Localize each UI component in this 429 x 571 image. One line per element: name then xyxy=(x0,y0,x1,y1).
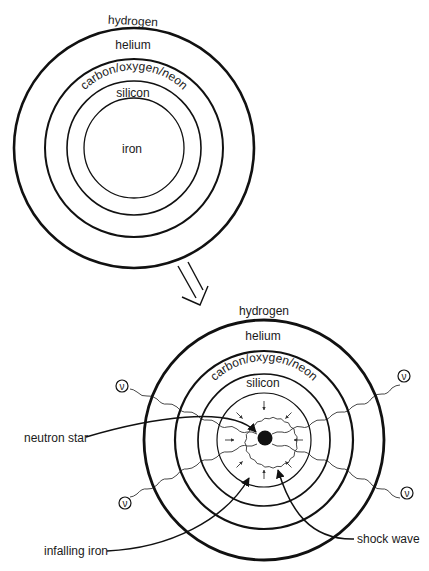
label-hydrogen: hydrogen xyxy=(239,304,289,318)
label-infalling-iron: infalling iron xyxy=(44,544,108,558)
label-neutron-star: neutron star xyxy=(24,431,88,445)
infalling-iron-pointer xyxy=(107,478,249,551)
neutron-star xyxy=(258,431,273,446)
label-helium: helium xyxy=(115,38,150,52)
neutrino-icon-bottom-left: ν xyxy=(119,497,131,509)
shock-wave xyxy=(245,417,297,468)
svg-text:ν: ν xyxy=(123,498,128,509)
svg-text:ν: ν xyxy=(405,488,410,499)
core-collapse-star: hydrogen helium carbon/oxygen/neon silic… xyxy=(24,304,420,560)
svg-text:ν: ν xyxy=(402,371,407,382)
label-helium: helium xyxy=(245,329,280,343)
svg-text:ν: ν xyxy=(120,381,125,392)
supernova-diagram: hydrogen helium carbon/oxygen/neon silic… xyxy=(0,0,429,571)
label-iron: iron xyxy=(122,142,142,156)
neutrino-icon-top-left: ν xyxy=(116,380,128,392)
label-hydrogen: hydrogen xyxy=(108,13,159,30)
neutron-star-pointer xyxy=(86,417,256,437)
pre-collapse-star: hydrogen helium carbon/oxygen/neon silic… xyxy=(14,13,254,268)
neutrino-icon-top-right: ν xyxy=(398,370,410,382)
neutrino-icon-bottom-right: ν xyxy=(401,487,413,499)
double-arrow-icon xyxy=(178,262,208,305)
label-silicon: silicon xyxy=(246,376,279,390)
label-silicon: silicon xyxy=(116,86,149,100)
label-shock-wave: shock wave xyxy=(357,532,420,546)
